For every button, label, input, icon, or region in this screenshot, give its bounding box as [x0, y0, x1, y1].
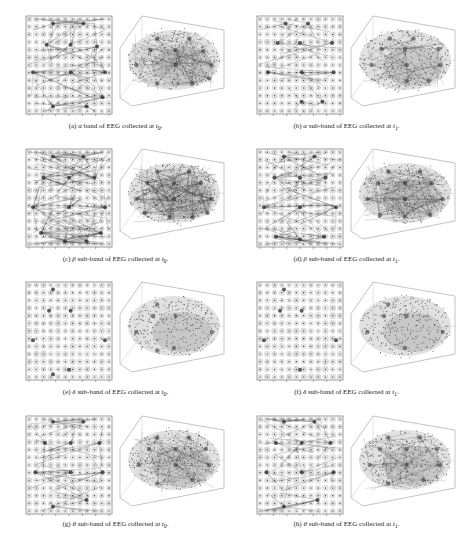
brain-3d-plot	[112, 408, 228, 522]
band-symbol: α	[303, 122, 307, 130]
electrode-grid-plot	[20, 147, 114, 255]
caption-text: sub-band of EEG collected at	[309, 122, 391, 130]
electrode-grid-plot	[251, 280, 345, 388]
brain-3d-plot	[343, 141, 459, 255]
subfigure-caption: (d) β sub-band of EEG collected at t1.	[231, 255, 462, 264]
subfigure-h: (h) θ sub-band of EEG collected at t1.	[231, 400, 462, 533]
caption-label: (g)	[63, 520, 71, 528]
caption-text: band of EEG collected at	[84, 122, 154, 130]
caption-label: (c)	[63, 255, 71, 263]
electrode-grid-plot	[20, 14, 114, 122]
caption-text: sub-band of EEG collected at	[308, 388, 390, 396]
brain-3d-plot	[343, 408, 459, 522]
time-subscript: 0	[164, 258, 167, 264]
subfigure-f: (f) δ sub-band of EEG collected at t1.	[231, 266, 462, 399]
subfigure-g: (g) θ sub-band of EEG collected at t0.	[0, 400, 231, 533]
caption-label: (d)	[294, 255, 302, 263]
band-symbol: θ	[72, 520, 75, 528]
caption-text: sub-band of EEG collected at	[309, 255, 391, 263]
subfigure-caption: (b) α sub-band of EEG collected at t1.	[231, 122, 462, 131]
electrode-grid-plot	[20, 280, 114, 388]
subfigure-b: (b) α sub-band of EEG collected at t1.	[231, 0, 462, 133]
caption-text: sub-band of EEG collected at	[309, 520, 391, 528]
band-symbol: δ	[303, 388, 306, 396]
time-subscript: 0	[164, 523, 167, 529]
time-subscript: 1	[394, 391, 397, 397]
time-subscript: 0	[158, 125, 161, 131]
subfigure-caption: (f) δ sub-band of EEG collected at t1.	[231, 388, 462, 397]
band-symbol: β	[303, 255, 307, 263]
electrode-grid-plot	[251, 147, 345, 255]
brain-3d-plot	[343, 274, 459, 388]
caption-label: (e)	[63, 388, 71, 396]
caption-text: sub-band of EEG collected at	[78, 520, 160, 528]
subfigure-caption: (c) β sub-band of EEG collected at t0.	[0, 255, 231, 264]
time-subscript: 1	[395, 125, 398, 131]
time-subscript: 1	[395, 523, 398, 529]
subfigure-caption: (h) θ sub-band of EEG collected at t1.	[231, 520, 462, 529]
caption-label: (f)	[294, 388, 301, 396]
brain-3d-plot	[112, 8, 228, 122]
band-symbol: β	[72, 255, 76, 263]
brain-3d-plot	[112, 274, 228, 388]
electrode-grid-plot	[251, 14, 345, 122]
subfigure-caption: (a) α band of EEG collected at t0.	[0, 122, 231, 131]
subfigure-d: (d) β sub-band of EEG collected at t1.	[231, 133, 462, 266]
electrode-grid-plot	[251, 414, 345, 522]
time-subscript: 1	[395, 258, 398, 264]
band-symbol: θ	[303, 520, 306, 528]
caption-text: sub-band of EEG collected at	[77, 255, 159, 263]
caption-label: (b)	[293, 122, 301, 130]
brain-3d-plot	[343, 8, 459, 122]
subfigure-c: (c) β sub-band of EEG collected at t0.	[0, 133, 231, 266]
caption-label: (a)	[69, 122, 77, 130]
electrode-grid-plot	[20, 414, 114, 522]
subfigure-caption: (e) δ sub-band of EEG collected at t0.	[0, 388, 231, 397]
brain-3d-plot	[112, 141, 228, 255]
subfigure-a: (a) α band of EEG collected at t0.	[0, 0, 231, 133]
time-subscript: 0	[164, 391, 167, 397]
band-symbol: δ	[72, 388, 75, 396]
subfigure-e: (e) δ sub-band of EEG collected at t0.	[0, 266, 231, 399]
caption-label: (h)	[294, 520, 302, 528]
caption-text: sub-band of EEG collected at	[77, 388, 159, 396]
subfigure-caption: (g) θ sub-band of EEG collected at t0.	[0, 520, 231, 529]
band-symbol: α	[78, 122, 82, 130]
